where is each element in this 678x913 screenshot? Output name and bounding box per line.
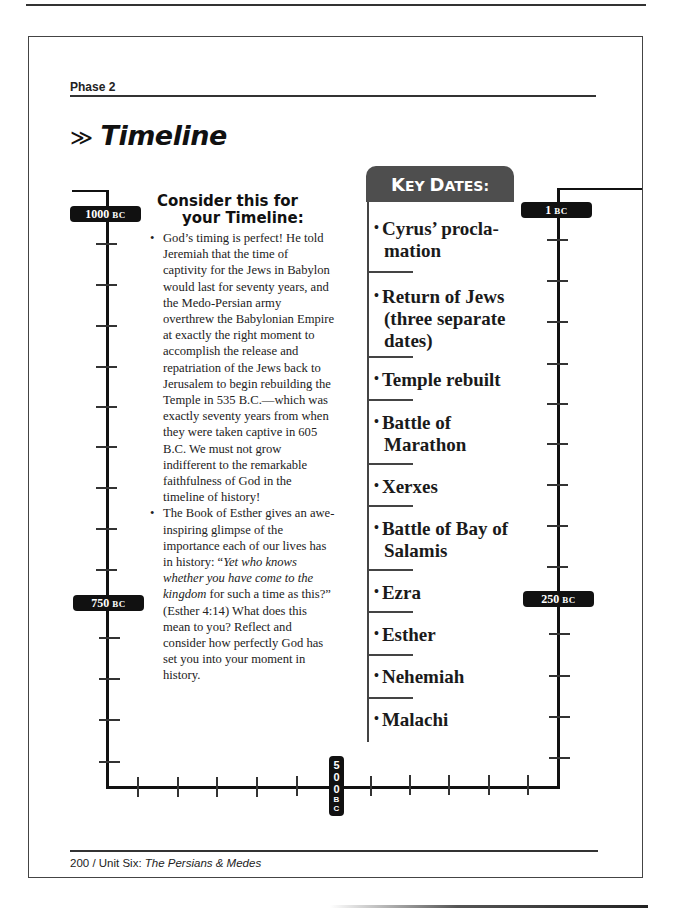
key-date-item: •Xerxes bbox=[374, 475, 524, 498]
tick bbox=[296, 776, 298, 796]
tick bbox=[96, 243, 117, 245]
tick bbox=[96, 284, 117, 286]
timeline-top-right-stub bbox=[557, 188, 642, 190]
key-date-item: •Battle of Bay ofSalamis bbox=[374, 517, 524, 562]
timeline-label-750bc: 750 BC bbox=[73, 595, 144, 611]
unit-title: The Persians & Medes bbox=[145, 857, 261, 869]
tick bbox=[549, 633, 570, 635]
tick bbox=[137, 777, 139, 797]
key-date-separator bbox=[367, 399, 413, 401]
tick bbox=[99, 719, 120, 721]
tick bbox=[547, 566, 568, 568]
tick bbox=[99, 637, 120, 639]
timeline-label-1bc: 1 BC bbox=[521, 202, 592, 218]
key-dates-heading: KEY DATES: bbox=[366, 166, 514, 202]
tick bbox=[527, 775, 529, 795]
consider-bullet-2: The Book of Esther gives an awe-inspirin… bbox=[150, 505, 335, 683]
key-date-separator bbox=[367, 569, 413, 571]
consider-bullet-1: God’s timing is perfect! He told Jeremia… bbox=[150, 230, 335, 505]
tick bbox=[448, 775, 450, 795]
key-date-item: •Cyrus’ procla-mation bbox=[374, 217, 524, 262]
timeline-right-axis bbox=[557, 188, 560, 788]
tick bbox=[547, 321, 568, 323]
key-date-separator bbox=[367, 697, 413, 699]
tick bbox=[99, 761, 120, 763]
tick bbox=[549, 716, 570, 718]
key-dates-rule bbox=[367, 202, 369, 742]
tick bbox=[409, 775, 411, 795]
tick bbox=[549, 675, 570, 677]
tick bbox=[177, 777, 179, 797]
key-date-item: •Return of Jews(three separatedates) bbox=[374, 285, 524, 352]
tick bbox=[96, 366, 117, 368]
timeline-label-1000bc: 1000 BC bbox=[70, 206, 141, 222]
tick bbox=[547, 363, 568, 365]
tick bbox=[549, 757, 570, 759]
tick bbox=[488, 775, 490, 795]
tick bbox=[96, 446, 117, 448]
tick bbox=[96, 569, 117, 571]
timeline-top-left-stub bbox=[72, 190, 107, 192]
tick bbox=[547, 484, 568, 486]
tick bbox=[96, 406, 117, 408]
consider-bullets: God’s timing is perfect! He told Jeremia… bbox=[150, 230, 335, 684]
tick bbox=[547, 239, 568, 241]
key-date-separator bbox=[367, 463, 413, 465]
key-date-item: •Esther bbox=[374, 623, 524, 646]
key-date-item: •Battle ofMarathon bbox=[374, 411, 524, 456]
tick bbox=[547, 280, 568, 282]
tick bbox=[216, 777, 218, 797]
timeline-label-500bc: 5 0 0 B C bbox=[329, 756, 344, 816]
timeline-left-axis bbox=[106, 190, 109, 788]
page-footer: 200 / Unit Six: The Persians & Medes bbox=[70, 857, 261, 869]
key-date-separator bbox=[367, 271, 413, 273]
tick bbox=[96, 325, 117, 327]
key-date-item: •Ezra bbox=[374, 581, 524, 604]
footer-rule bbox=[70, 850, 598, 852]
key-date-separator bbox=[367, 611, 413, 613]
section-rule bbox=[70, 95, 596, 97]
tick bbox=[547, 525, 568, 527]
top-rule bbox=[26, 4, 646, 6]
tick bbox=[99, 678, 120, 680]
tick bbox=[256, 777, 258, 797]
section-label: Phase 2 bbox=[70, 80, 115, 94]
timeline-label-250bc: 250 BC bbox=[523, 591, 594, 607]
key-date-separator bbox=[367, 505, 413, 507]
key-date-separator bbox=[367, 356, 413, 358]
bottom-rule bbox=[330, 905, 648, 908]
consider-heading: Consider this for your Timeline: bbox=[157, 193, 304, 227]
tick bbox=[96, 487, 117, 489]
tick bbox=[547, 443, 568, 445]
title-text: Timeline bbox=[101, 120, 227, 151]
page-title: ≫Timeline bbox=[70, 120, 227, 151]
key-date-item: •Malachi bbox=[374, 708, 524, 731]
key-date-item: •Temple rebuilt bbox=[374, 368, 524, 391]
tick bbox=[547, 403, 568, 405]
page-number: 200 bbox=[70, 857, 89, 869]
arrow-icon: ≫ bbox=[70, 125, 93, 150]
key-date-separator bbox=[367, 654, 413, 656]
key-date-item: •Nehemiah bbox=[374, 665, 524, 688]
page-frame bbox=[28, 36, 643, 878]
tick bbox=[96, 528, 117, 530]
tick bbox=[370, 776, 372, 796]
